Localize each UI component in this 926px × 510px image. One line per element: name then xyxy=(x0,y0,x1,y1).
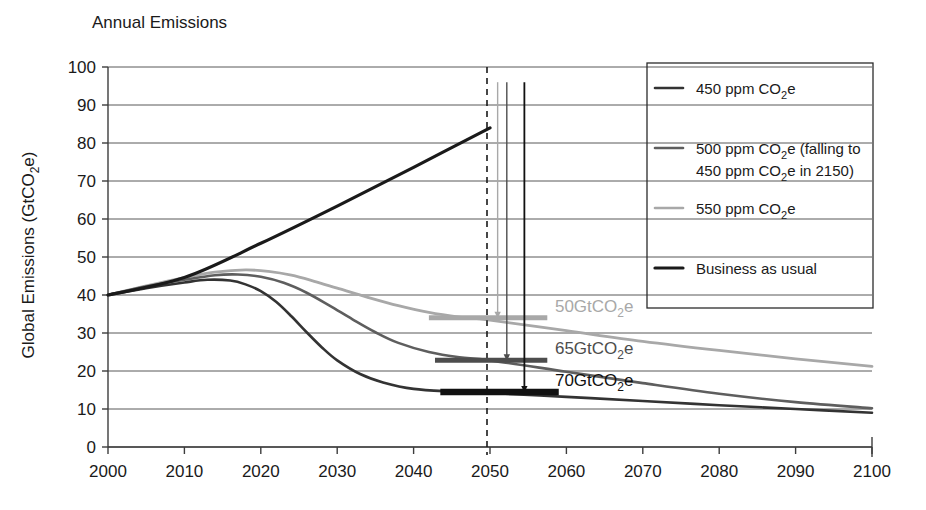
y-axis-label-pre: Global Emissions (GtCO xyxy=(19,173,38,358)
legend-label-pre-0: 450 ppm CO xyxy=(696,80,781,97)
legend-label-post-2: e xyxy=(787,200,795,217)
legend-label-post-0: e xyxy=(787,80,795,97)
legend-label-3[interactable]: Business as usual xyxy=(696,260,817,277)
y-tick-label-40: 40 xyxy=(77,286,96,305)
annotation-label-pre-2: 70GtCO xyxy=(555,371,617,390)
chart-container: Annual Emissions Global Emissions (GtCO2… xyxy=(0,0,926,510)
y-tick-label-80: 80 xyxy=(77,134,96,153)
x-tick-label-2030: 2030 xyxy=(318,462,356,481)
annotation-label-post-0: e xyxy=(624,297,633,316)
x-tick-label-2090: 2090 xyxy=(777,462,815,481)
y-tick-label-90: 90 xyxy=(77,96,96,115)
x-tick-label-2100: 2100 xyxy=(853,462,891,481)
x-tick-label-2060: 2060 xyxy=(547,462,585,481)
x-tick-label-2080: 2080 xyxy=(700,462,738,481)
x-tick-label-2020: 2020 xyxy=(242,462,280,481)
y-tick-label-100: 100 xyxy=(68,58,96,77)
legend-label-1[interactable]: 500 ppm CO2e (falling to450 ppm CO2e in … xyxy=(696,140,861,183)
x-tick-label-2000: 2000 xyxy=(89,462,127,481)
y-tick-label-10: 10 xyxy=(77,400,96,419)
y-axis-label-post: e) xyxy=(19,152,38,167)
x-tick-label-2040: 2040 xyxy=(395,462,433,481)
emissions-line-chart: Annual Emissions Global Emissions (GtCO2… xyxy=(0,0,926,510)
annotation-label-post-2: e xyxy=(624,371,633,390)
y-tick-label-50: 50 xyxy=(77,248,96,267)
annotation-label-pre-0: 50GtCO xyxy=(555,297,617,316)
y-tick-label-60: 60 xyxy=(77,210,96,229)
y-tick-label-30: 30 xyxy=(77,324,96,343)
annotation-label-post-1: e xyxy=(624,339,633,358)
chart-title: Annual Emissions xyxy=(92,13,227,32)
legend-label-pre-2: 550 ppm CO xyxy=(696,200,781,217)
legend-label-pre-3: Business as usual xyxy=(696,260,817,277)
y-tick-label-20: 20 xyxy=(77,362,96,381)
y-tick-label-0: 0 xyxy=(87,438,96,457)
x-tick-label-2070: 2070 xyxy=(624,462,662,481)
x-tick-label-2050: 2050 xyxy=(471,462,509,481)
y-tick-label-70: 70 xyxy=(77,172,96,191)
x-tick-label-2010: 2010 xyxy=(165,462,203,481)
chart-background xyxy=(0,0,926,510)
annotation-label-pre-1: 65GtCO xyxy=(555,339,617,358)
